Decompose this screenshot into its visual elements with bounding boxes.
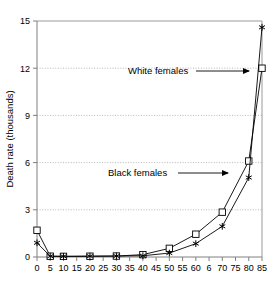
y-tick-label: 0 — [25, 252, 30, 262]
plot-frame — [37, 21, 262, 257]
x-tick-label: 70 — [217, 263, 227, 273]
data-point-marker-star — [219, 223, 225, 230]
x-tick-label: 25 — [98, 263, 108, 273]
annotation-label: Black females — [108, 167, 167, 178]
y-tick-label: 6 — [25, 158, 30, 168]
y-tick-label: 9 — [25, 111, 30, 121]
x-tick-label: 60 — [191, 263, 201, 273]
x-tick-label: 45 — [151, 263, 161, 273]
annotation-white-females: White females — [128, 65, 249, 76]
data-point-marker-square — [34, 227, 40, 233]
x-tick-label: 15 — [72, 263, 82, 273]
x-tick-label: 75 — [231, 263, 241, 273]
y-tick-label: 3 — [25, 205, 30, 215]
x-tick-label: 35 — [125, 263, 135, 273]
x-tick-label: 6 — [207, 263, 212, 273]
y-axis: 03691215 — [20, 16, 37, 262]
data-point-marker-star — [259, 24, 265, 31]
x-tick-label: 55 — [178, 263, 188, 273]
x-tick-label: 40 — [138, 263, 148, 273]
x-tick-label: 50 — [164, 263, 174, 273]
x-tick-label: 20 — [85, 263, 95, 273]
chart-container: 0369121505101520253035404550556067075808… — [0, 0, 276, 284]
series-line — [37, 27, 262, 256]
data-point-marker-square — [259, 65, 265, 71]
x-tick-label: 85 — [257, 263, 267, 273]
data-point-marker-square — [193, 231, 199, 237]
annotation-black-females: Black females — [108, 167, 228, 178]
x-tick-label: 10 — [58, 263, 68, 273]
annotation-label: White females — [128, 65, 188, 76]
data-point-marker-star — [246, 174, 252, 181]
series-black-females — [34, 24, 265, 260]
x-tick-label: 5 — [48, 263, 53, 273]
x-tick-label: 0 — [34, 263, 39, 273]
y-axis-title: Death rate (thousands) — [4, 90, 15, 187]
gridlines — [37, 68, 262, 210]
y-tick-label: 12 — [20, 64, 30, 74]
death-rate-line-chart: 0369121505101520253035404550556067075808… — [0, 0, 276, 284]
x-tick-label: 30 — [111, 263, 121, 273]
data-point-marker-square — [246, 158, 252, 164]
y-tick-label: 15 — [20, 16, 30, 26]
x-tick-label: 80 — [244, 263, 254, 273]
x-axis: 051015202530354045505560670758085 — [34, 257, 267, 273]
data-point-marker-square — [219, 209, 225, 215]
data-point-marker-star — [193, 240, 199, 247]
